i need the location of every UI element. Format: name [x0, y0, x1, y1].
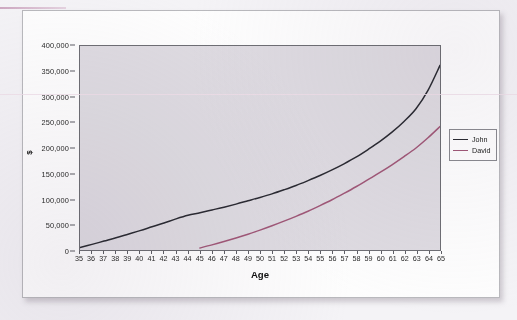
x-axis-tick-label: 37 — [99, 254, 107, 263]
x-axis-tick-mark — [417, 251, 418, 254]
x-axis-tick-mark — [176, 251, 177, 254]
x-axis-tick-mark — [188, 251, 189, 254]
x-axis-tick-mark — [224, 251, 225, 254]
x-axis-tick-label: 38 — [111, 254, 119, 263]
x-axis-tick-mark — [441, 251, 442, 254]
x-axis-tick-mark — [115, 251, 116, 254]
x-axis-tick-mark — [369, 251, 370, 254]
x-axis-tick-label: 43 — [172, 254, 180, 263]
x-axis-tick-label: 56 — [328, 254, 336, 263]
chart-body: 050,000100,000150,000200,000250,000300,0… — [23, 11, 499, 297]
x-axis-tick-label: 61 — [389, 254, 397, 263]
x-axis-tick-label: 41 — [147, 254, 155, 263]
y-axis-tick-label: 150,000 — [42, 169, 69, 178]
scan-artifact-streak-top — [0, 7, 66, 9]
plot-svg — [80, 46, 440, 250]
series-line-john — [80, 65, 440, 247]
y-axis-tick-label: 400,000 — [42, 41, 69, 50]
x-axis-tick-mark — [91, 251, 92, 254]
x-axis-tick-mark — [381, 251, 382, 254]
x-axis-tick-label: 65 — [437, 254, 445, 263]
legend-label: David — [472, 146, 490, 155]
x-axis-tick-label: 48 — [232, 254, 240, 263]
x-axis-tick-label: 60 — [377, 254, 385, 263]
y-axis-tick-label: 350,000 — [42, 66, 69, 75]
scanned-page-background: 050,000100,000150,000200,000250,000300,0… — [0, 0, 517, 320]
y-axis-tick-labels: 050,000100,000150,000200,000250,000300,0… — [23, 45, 75, 251]
x-axis-tick-mark — [151, 251, 152, 254]
y-axis-tick-mark — [70, 148, 75, 149]
x-axis-tick-mark — [344, 251, 345, 254]
y-axis-tick-mark — [70, 45, 75, 46]
x-axis-tick-label: 44 — [184, 254, 192, 263]
x-axis-tick-mark — [139, 251, 140, 254]
x-axis-tick-label: 55 — [316, 254, 324, 263]
y-axis-tick-mark — [70, 70, 75, 71]
y-axis-tick-label: 300,000 — [42, 92, 69, 101]
plot-area — [79, 45, 441, 251]
x-axis-tick-label: 39 — [123, 254, 131, 263]
x-axis-tick-mark — [260, 251, 261, 254]
y-axis-tick-label: 50,000 — [46, 221, 69, 230]
x-axis-tick-labels: 3536373839404142434445464748495051525354… — [79, 254, 441, 268]
x-axis-tick-label: 52 — [280, 254, 288, 263]
x-axis-tick-mark — [308, 251, 309, 254]
x-axis-tick-label: 47 — [220, 254, 228, 263]
y-axis-tick-mark — [70, 96, 75, 97]
y-axis-tick-mark — [70, 199, 75, 200]
chart-legend: JohnDavid — [449, 129, 497, 161]
x-axis-tick-label: 58 — [353, 254, 361, 263]
legend-label: John — [472, 135, 488, 144]
x-axis-tick-mark — [127, 251, 128, 254]
x-axis-tick-mark — [200, 251, 201, 254]
y-axis-tick-mark — [70, 122, 75, 123]
y-axis-tick-mark — [70, 173, 75, 174]
y-axis-tick-label: 0 — [65, 247, 69, 256]
x-axis-tick-label: 51 — [268, 254, 276, 263]
x-axis-tick-mark — [272, 251, 273, 254]
legend-item: David — [453, 145, 493, 156]
x-axis-tick-label: 64 — [425, 254, 433, 263]
y-axis-tick-label: 200,000 — [42, 144, 69, 153]
x-axis-tick-mark — [212, 251, 213, 254]
y-axis-tick-label: 250,000 — [42, 118, 69, 127]
chart-card: 050,000100,000150,000200,000250,000300,0… — [22, 10, 500, 298]
x-axis-tick-label: 45 — [196, 254, 204, 263]
x-axis-tick-label: 46 — [208, 254, 216, 263]
x-axis-tick-label: 50 — [256, 254, 264, 263]
x-axis-tick-label: 54 — [304, 254, 312, 263]
y-axis-tick-label: 100,000 — [42, 195, 69, 204]
x-axis-tick-label: 40 — [135, 254, 143, 263]
x-axis-tick-mark — [236, 251, 237, 254]
x-axis-tick-label: 49 — [244, 254, 252, 263]
x-axis-tick-label: 57 — [340, 254, 348, 263]
x-axis-tick-mark — [393, 251, 394, 254]
x-axis-tick-mark — [79, 251, 80, 254]
x-axis-tick-label: 63 — [413, 254, 421, 263]
x-axis-tick-mark — [296, 251, 297, 254]
x-axis-tick-mark — [405, 251, 406, 254]
x-axis-tick-label: 35 — [75, 254, 83, 263]
x-axis-tick-mark — [103, 251, 104, 254]
x-axis-tick-mark — [284, 251, 285, 254]
y-axis-tick-mark — [70, 251, 75, 252]
x-axis-tick-label: 62 — [401, 254, 409, 263]
legend-color-swatch — [453, 139, 468, 140]
x-axis-tick-mark — [163, 251, 164, 254]
y-axis-tick-mark — [70, 225, 75, 226]
x-axis-tick-label: 59 — [365, 254, 373, 263]
x-axis-tick-label: 42 — [159, 254, 167, 263]
x-axis-title: Age — [79, 269, 441, 280]
x-axis-tick-label: 36 — [87, 254, 95, 263]
series-line-david — [200, 127, 440, 248]
x-axis-tick-label: 53 — [292, 254, 300, 263]
y-axis-title: $ — [25, 150, 34, 154]
x-axis-tick-mark — [357, 251, 358, 254]
legend-item: John — [453, 134, 493, 145]
x-axis-tick-mark — [248, 251, 249, 254]
x-axis-tick-mark — [332, 251, 333, 254]
legend-color-swatch — [453, 150, 468, 151]
x-axis-tick-mark — [320, 251, 321, 254]
x-axis-tick-mark — [429, 251, 430, 254]
